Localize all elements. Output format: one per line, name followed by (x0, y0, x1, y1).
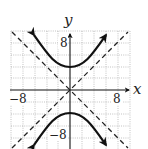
y-tick-label-8: 8 (60, 36, 68, 50)
y-axis-label: y (63, 11, 73, 29)
hyperbola-graph: 8 −8 −8 8 x y (0, 0, 148, 149)
x-axis-label: x (133, 80, 142, 98)
y-tick-label-neg-8: −8 (49, 128, 67, 142)
x-tick-label-neg-8: −8 (9, 92, 27, 106)
x-tick-label-8: 8 (113, 92, 121, 106)
